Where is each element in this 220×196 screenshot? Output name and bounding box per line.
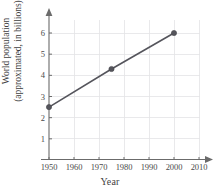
data-point-marker <box>171 30 176 35</box>
y-axis-title-line-2: (approximated, in billions) <box>12 0 24 126</box>
data-point-marker <box>46 104 51 109</box>
x-tick-label: 2000 <box>166 163 183 172</box>
y-tick-label: 6 <box>33 29 45 38</box>
x-tick-label: 1970 <box>91 163 108 172</box>
y-axis-title: World population (approximated, in billi… <box>0 0 26 126</box>
x-axis-title: Year <box>0 176 220 187</box>
x-tick-label: 1990 <box>141 163 158 172</box>
x-tick-label: 1980 <box>116 163 133 172</box>
axes <box>41 8 213 163</box>
y-axis-title-line-1: World population <box>0 0 12 126</box>
x-tick-label: 1960 <box>66 163 83 172</box>
horizontal-gridlines <box>49 33 200 139</box>
data-point-marker <box>109 66 114 71</box>
y-tick-label: 2 <box>33 113 45 122</box>
x-tick-label: 1950 <box>41 163 58 172</box>
y-tick-label: 5 <box>33 50 45 59</box>
y-tick-label: 4 <box>33 71 45 80</box>
x-tick-label: 2010 <box>191 163 208 172</box>
y-axis-arrow-icon <box>46 8 53 16</box>
y-tick-label: 3 <box>33 92 45 101</box>
population-line-chart: 1950196019701980199020002010 123456 Year… <box>0 0 220 196</box>
y-tick-label: 1 <box>33 135 45 144</box>
